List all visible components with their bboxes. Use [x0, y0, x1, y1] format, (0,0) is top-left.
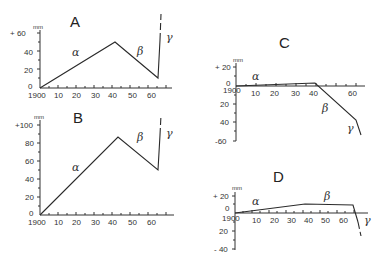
panel-b-ytick: 40 [25, 175, 34, 184]
panel-c-ytick: -60 [215, 137, 227, 146]
panel-b-ytick: 60 [25, 157, 34, 166]
panel-c-xtick: 40 [309, 89, 318, 98]
panel-d-xtick: 1900 [222, 214, 240, 223]
panel-d-xtick: 60 [339, 216, 348, 225]
panel-b: B mm +100 80 60 40 20 0 1900 10 20 30 [15, 109, 174, 227]
panel-c-ytick: 40 [220, 118, 229, 127]
panel-b-xtick: 40 [108, 218, 117, 227]
panel-b-xtick: 60 [147, 218, 156, 227]
panel-b-xtick: 1900 [28, 218, 46, 227]
panel-a-xtick: 30 [91, 91, 100, 100]
panel-a-ytick: 40 [24, 48, 33, 57]
panel-c-gamma-label: γ [347, 122, 354, 135]
panel-c-ytick: 20 [220, 100, 229, 109]
panel-d: D mm + 20 0 20 - 40 1900 10 20 30 40 50 … [213, 168, 371, 254]
panel-b-line [40, 135, 160, 215]
panel-d-xtick: 30 [287, 216, 296, 225]
panel-b-xtick: 30 [91, 218, 100, 227]
panel-c-unit: mm [233, 57, 243, 63]
panel-d-ytick: 20 [219, 227, 228, 236]
panel-d-title: D [273, 168, 284, 185]
panel-c-xtick: 20 [270, 89, 279, 98]
panel-d-xtick: 10 [252, 216, 261, 225]
panel-c-xtick: 60 [348, 89, 357, 98]
panel-b-xtick: 20 [72, 218, 81, 227]
panel-b-gamma-dashed [160, 115, 161, 135]
panel-b-xtick: 10 [54, 218, 63, 227]
panel-d-ytick: - 40 [214, 245, 228, 254]
panel-a: A mm + 60 40 20 0 1900 10 20 30 40 50 [10, 13, 173, 100]
panel-c-beta-label: β [321, 102, 328, 115]
panel-c-xtick: 1900 [223, 86, 241, 95]
panel-b-beta-label: β [136, 131, 143, 144]
panel-d-beta-label: β [323, 190, 330, 203]
panel-a-xtick: 50 [128, 91, 137, 100]
panel-a-title: A [70, 13, 80, 30]
panel-b-unit: mm [34, 114, 44, 120]
panel-d-alpha-label: α [252, 195, 260, 208]
panel-d-ytick: 0 [225, 204, 230, 213]
panel-c-xtick: 30 [291, 89, 300, 98]
panel-b-ytick: 80 [25, 139, 34, 148]
panel-d-xtick: 20 [270, 216, 279, 225]
panel-a-gamma-label: γ [166, 31, 173, 44]
panel-d-ytick: + 20 [213, 192, 229, 201]
panel-a-unit: mm [33, 24, 43, 30]
panel-c-title: C [279, 34, 290, 51]
panel-b-ytick: +100 [15, 121, 34, 130]
panel-a-ytick: + 60 [10, 29, 26, 38]
panel-c-alpha-label: α [252, 70, 260, 83]
panel-b-title: B [73, 109, 83, 126]
figure-canvas: A mm + 60 40 20 0 1900 10 20 30 40 50 [0, 0, 387, 265]
panel-a-gamma-dashed [160, 14, 161, 40]
panel-a-xtick: 40 [108, 91, 117, 100]
panel-a-beta-label: β [136, 45, 143, 58]
panel-b-xtick: 50 [128, 218, 137, 227]
panel-d-xtick: 50 [321, 216, 330, 225]
panel-c-xtick: 10 [251, 89, 260, 98]
panel-a-xtick: 20 [72, 91, 81, 100]
panel-a-alpha-label: α [72, 46, 80, 59]
panel-d-xtick: 40 [304, 216, 313, 225]
panel-b-gamma-label: γ [166, 127, 173, 140]
panel-d-gamma-dashed [358, 222, 361, 236]
panel-b-alpha-label: α [72, 161, 80, 174]
panel-d-unit: mm [232, 185, 242, 191]
panel-a-xtick: 10 [54, 91, 63, 100]
panel-c-ytick: + 20 [215, 63, 231, 72]
panel-b-ytick: 20 [25, 193, 34, 202]
panel-a-xtick: 1900 [28, 91, 46, 100]
panel-b-ytick: 0 [29, 209, 34, 218]
panel-a-ytick: 20 [24, 66, 33, 75]
panel-d-gamma-label: γ [364, 214, 371, 227]
panel-a-xtick: 60 [147, 91, 156, 100]
panel-a-ytick: 0 [28, 82, 33, 91]
panel-c: C mm + 20 0 20 40 -60 1900 10 20 30 40 6… [215, 34, 365, 146]
